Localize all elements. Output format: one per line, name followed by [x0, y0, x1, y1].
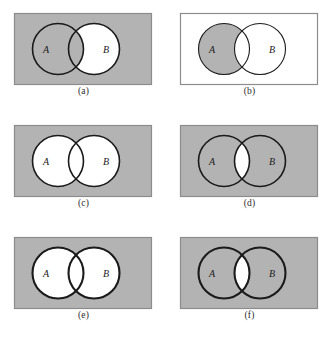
set-label-a-e: A [42, 268, 50, 279]
set-label-b-b: B [269, 44, 275, 55]
set-label-b-d: B [269, 156, 275, 167]
set-label-b-e: B [103, 268, 109, 279]
panel-caption-c: (c) [0, 198, 167, 208]
panel-caption-f: (f) [166, 310, 333, 320]
panel-caption-a: (a) [0, 86, 167, 96]
panel-caption-e: (e) [0, 310, 167, 320]
set-label-a-b: A [208, 44, 216, 55]
venn-panel-c: AB (c) [0, 112, 167, 224]
venn-diagram-figure: AB (a) AB (b) AB (c) AB (d) AB (e) AB (f… [0, 0, 333, 338]
set-label-b-c: B [103, 156, 109, 167]
venn-panel-e: AB (e) [0, 224, 167, 336]
venn-panel-f: AB (f) [166, 224, 333, 336]
set-label-a-d: A [208, 156, 216, 167]
venn-panel-a: AB (a) [0, 0, 167, 112]
set-label-a-a: A [42, 44, 50, 55]
venn-panel-d: AB (d) [166, 112, 333, 224]
venn-panel-b: AB (b) [166, 0, 333, 112]
panel-caption-b: (b) [166, 86, 333, 96]
set-label-a-c: A [42, 156, 50, 167]
set-label-b-f: B [269, 268, 275, 279]
panel-caption-d: (d) [166, 198, 333, 208]
set-label-a-f: A [208, 268, 216, 279]
set-label-b-a: B [103, 44, 109, 55]
